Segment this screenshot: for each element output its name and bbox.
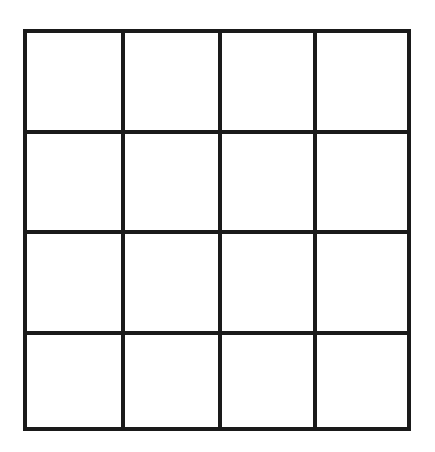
grid-line-horizontal-2 — [27, 230, 407, 234]
grid-line-horizontal-1 — [27, 130, 407, 134]
grid-4x4 — [23, 29, 411, 431]
grid-line-horizontal-3 — [27, 331, 407, 335]
